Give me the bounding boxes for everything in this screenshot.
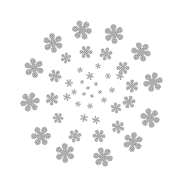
snowflake-icon [78,112,89,123]
snowflake-icon [20,54,48,82]
snowflake-icon [17,89,42,114]
snowflake-icon [66,127,85,146]
snowflake-burst-image [0,0,182,184]
snowflake-icon [39,29,67,57]
snowflake-icon [64,78,74,89]
snowflake-icon [101,21,127,48]
snowflake-icon [87,103,94,110]
snowflake-icon [82,92,86,96]
snowflake-icon [45,92,59,106]
snowflake-icon [109,118,127,137]
snowflake-icon [74,100,82,108]
snowflake-icon [27,122,54,149]
snowflake-icon [115,71,124,81]
snowflake-icon [71,89,78,96]
snowflake-icon [136,104,164,132]
snowflake-icon [85,85,91,91]
snowflake-icon [92,129,106,143]
snowflake-icon [109,87,115,94]
snowflake-icon [141,70,165,94]
snowflake-icon [120,129,146,155]
snowflake-icon [128,40,153,65]
snowflake-icon [46,67,65,86]
snowflake-icon [79,45,92,59]
snowflake-icon [93,81,99,87]
snowflake-icon [104,72,112,80]
snowflake-layer [0,0,182,184]
snowflake-icon [97,45,116,64]
snowflake-icon [59,51,74,66]
snowflake-icon [85,71,95,81]
snowflake-icon [100,96,108,104]
snowflake-icon [71,19,94,42]
snowflake-icon [51,111,66,126]
snowflake-icon [91,115,101,125]
snowflake-icon [108,100,123,115]
snowflake-icon [120,93,137,110]
snowflake-icon [76,66,83,73]
snowflake-icon [63,92,72,101]
snowflake-icon [98,90,102,94]
snowflake-icon [91,145,114,169]
snowflake-icon [80,80,85,85]
snowflake-icon [125,79,139,93]
snowflake-icon [90,94,95,99]
snowflake-icon [52,140,79,167]
snowflake-icon [94,62,102,70]
